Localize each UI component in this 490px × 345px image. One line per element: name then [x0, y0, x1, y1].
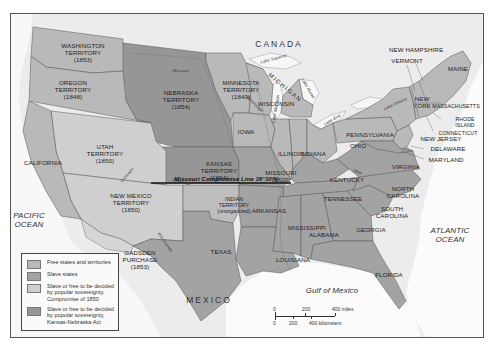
- label-virginia: VIRGINIA: [392, 163, 421, 170]
- scale-tick-400mi: [335, 313, 336, 316]
- label-utah-year: (1850): [96, 157, 115, 164]
- label-new-york-2: YORK: [413, 102, 432, 109]
- label-pacific-2: OCEAN: [15, 220, 44, 229]
- label-nebraska-2: TERRITORY: [163, 96, 199, 103]
- label-missouri-river: Missouri: [173, 68, 190, 73]
- label-kansas: KANSAS: [206, 160, 232, 167]
- legend-swatch-slave: [27, 272, 41, 281]
- label-indiana: INDIANA: [300, 150, 327, 157]
- label-minnesota-2: TERRITORY: [223, 86, 259, 93]
- legend-label-kansas-nebraska: Slave or free to be decided by popular s…: [47, 306, 115, 325]
- legend-label-slave: Slave states: [47, 271, 115, 277]
- label-south-carolina-1: SOUTH: [381, 205, 403, 212]
- scale-km-0: 0: [273, 320, 276, 326]
- label-gulf-of-mexico: Gulf of Mexico: [306, 286, 359, 295]
- legend-swatch-compromise: [27, 284, 41, 293]
- legend-item-compromise: Slave or free to be decided by popular s…: [27, 283, 115, 302]
- legend-item-free: Free states and territories: [27, 259, 115, 269]
- label-washington: WASHINGTON: [61, 42, 104, 49]
- label-iowa: IOWA: [238, 128, 255, 135]
- scale-line: [275, 316, 335, 317]
- label-texas: TEXAS: [211, 248, 232, 255]
- label-atlantic-2: OCEAN: [436, 235, 465, 244]
- label-maryland: MARYLAND: [428, 156, 464, 163]
- label-new-mexico: NEW MEXICO: [110, 192, 152, 199]
- label-nebraska: NEBRASKA: [164, 89, 199, 96]
- label-maine: MAINE: [448, 65, 468, 72]
- label-florida: FLORIDA: [375, 271, 403, 278]
- label-mississippi: MISSISSIPPI: [288, 224, 326, 231]
- label-utah-2: TERRITORY: [87, 150, 123, 157]
- label-new-york-1: NEW: [415, 95, 430, 102]
- label-north-carolina-1: NORTH: [392, 185, 414, 192]
- legend-item-slave: Slave states: [27, 271, 115, 281]
- label-ohio: OHIO: [350, 142, 366, 149]
- label-rhode-island-2: ISLAND: [455, 122, 474, 128]
- label-minnesota: MINNESOTA: [222, 79, 260, 86]
- label-indian-year: (unorganized): [217, 208, 250, 214]
- label-mexico: MEXICO: [186, 295, 232, 305]
- map-frame: CANADA MEXICO PACIFIC OCEAN ATLANTIC OCE…: [10, 13, 484, 338]
- label-new-jersey: NEW JERSEY: [420, 135, 461, 142]
- legend: Free states and territories Slave states…: [21, 253, 119, 331]
- label-oregon-year: (1848): [64, 93, 83, 100]
- label-kansas-year: (1854): [210, 174, 229, 181]
- label-washington-year: (1853): [74, 56, 93, 63]
- label-south-carolina-2: CAROLINA: [376, 212, 409, 219]
- legend-label-free: Free states and territories: [47, 259, 115, 265]
- scale-tick-200km: [293, 316, 294, 319]
- label-pacific-1: PACIFIC: [13, 211, 45, 220]
- label-vermont: VERMONT: [391, 57, 423, 64]
- label-kansas-2: TERRITORY: [201, 167, 237, 174]
- label-canada: CANADA: [255, 39, 302, 49]
- legend-swatch-kansas-nebraska: [27, 307, 41, 316]
- label-louisiana: LOUISIANA: [276, 256, 311, 263]
- label-new-mexico-2: TERRITORY: [113, 199, 149, 206]
- label-california: CALIFORNIA: [24, 159, 63, 166]
- scale-km-400: 400 kilometers: [309, 320, 342, 326]
- scale-tick-0: [275, 312, 276, 320]
- scale-bar: 0 200 400 miles 0 200 400 kilometers: [273, 303, 393, 333]
- label-arkansas: ARKANSAS: [252, 207, 287, 214]
- label-oregon-2: TERRITORY: [55, 86, 91, 93]
- legend-swatch-free: [27, 260, 41, 269]
- scale-miles-200: 200: [302, 306, 310, 312]
- label-missouri: MISSOURI: [265, 169, 297, 176]
- scale-tick-200mi: [305, 313, 306, 316]
- label-oregon: OREGON: [59, 79, 87, 86]
- label-massachusetts: MASSACHUSETTS: [432, 103, 480, 109]
- label-gadsden: GADSDEN: [124, 249, 155, 256]
- scale-miles-0: 0: [273, 306, 276, 312]
- legend-label-compromise: Slave or free to be decided by popular s…: [47, 283, 115, 302]
- label-nebraska-year: (1854): [172, 103, 191, 110]
- label-washington-2: TERRITORY: [65, 49, 101, 56]
- label-new-hampshire: NEW HAMPSHIRE: [389, 46, 443, 53]
- label-tennessee: TENNESSEE: [324, 195, 362, 202]
- label-utah: UTAH: [97, 143, 114, 150]
- label-kentucky: KENTUCKY: [330, 176, 365, 183]
- label-pennsylvania: PENNSYLVANIA: [346, 131, 395, 138]
- legend-item-kansas-nebraska: Slave or free to be decided by popular s…: [27, 306, 115, 325]
- label-georgia: GEORGIA: [356, 226, 386, 233]
- label-alabama: ALABAMA: [309, 231, 340, 238]
- pennsylvania-state: [333, 117, 397, 143]
- label-new-mexico-year: (1850): [122, 206, 141, 213]
- label-atlantic-1: ATLANTIC: [430, 226, 470, 235]
- label-gadsden-2: PURCHASE: [122, 256, 157, 263]
- scale-tick-400km: [311, 316, 312, 319]
- label-north-carolina-2: CAROLINA: [387, 192, 420, 199]
- label-missouri-year: (1820): [272, 176, 291, 183]
- scale-miles-400: 400 miles: [332, 306, 353, 312]
- scale-km-200: 200: [289, 320, 297, 326]
- label-delaware: DELAWARE: [430, 145, 465, 152]
- label-gadsden-year: (1853): [131, 263, 150, 270]
